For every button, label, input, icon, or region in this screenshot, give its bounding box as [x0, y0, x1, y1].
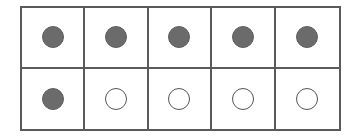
empty-counter-icon	[105, 88, 127, 110]
frame-cell	[212, 8, 275, 69]
frame-cell	[276, 8, 339, 69]
frame-cell	[149, 8, 212, 69]
frame-cell	[149, 69, 212, 130]
filled-counter-icon	[42, 88, 64, 110]
frame-cell	[22, 8, 85, 69]
filled-counter-icon	[296, 26, 318, 48]
filled-counter-icon	[105, 26, 127, 48]
frame-cell	[22, 69, 85, 130]
empty-counter-icon	[296, 88, 318, 110]
frame-cell	[85, 69, 148, 130]
frame-cell	[212, 69, 275, 130]
filled-counter-icon	[42, 26, 64, 48]
frame-cell	[276, 69, 339, 130]
empty-counter-icon	[232, 88, 254, 110]
filled-counter-icon	[168, 26, 190, 48]
empty-counter-icon	[168, 88, 190, 110]
ten-frame	[20, 6, 341, 131]
filled-counter-icon	[232, 26, 254, 48]
frame-cell	[85, 8, 148, 69]
